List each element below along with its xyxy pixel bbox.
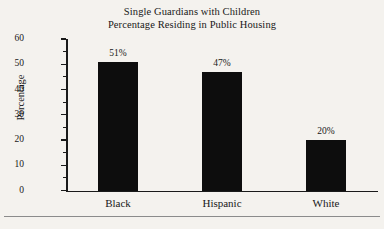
bar (202, 72, 242, 191)
y-axis-line (66, 39, 68, 192)
x-category-label: Black (68, 197, 168, 209)
x-category-label: Hispanic (172, 197, 272, 209)
bar-value-label: 20% (296, 127, 356, 137)
bar-chart-figure: Single Guardians with Children Percentag… (0, 0, 384, 229)
y-tick-label: 50 (0, 59, 24, 69)
chart-title: Single Guardians with Children Percentag… (0, 6, 384, 31)
bar-value-label: 51% (88, 49, 148, 59)
y-axis-tick-labels: 0102030405060 (32, 39, 58, 192)
bar-value-label: 47% (192, 59, 252, 69)
bar (98, 62, 138, 191)
x-category-label: White (276, 197, 376, 209)
plot-area: 51%47%20% (66, 39, 378, 192)
y-tick-minor (63, 152, 66, 153)
y-tick-label: 10 (0, 160, 24, 170)
bar (306, 140, 346, 191)
y-tick-label: 40 (0, 85, 24, 95)
x-axis-category-labels: BlackHispanicWhite (66, 197, 378, 213)
y-tick-label: 60 (0, 34, 24, 44)
y-tick-major (61, 38, 66, 39)
y-tick-label: 0 (0, 186, 24, 196)
y-tick-minor (63, 51, 66, 52)
x-axis-line (66, 191, 378, 193)
y-tick-major (61, 89, 66, 90)
chart-title-line-1: Single Guardians with Children (0, 6, 384, 19)
y-tick-major (61, 139, 66, 140)
y-tick-minor (63, 76, 66, 77)
y-tick-major (61, 165, 66, 166)
chart-title-line-2: Percentage Residing in Public Housing (0, 19, 384, 32)
y-tick-major (61, 190, 66, 191)
y-tick-minor (63, 102, 66, 103)
y-tick-minor (63, 177, 66, 178)
y-tick-minor (63, 127, 66, 128)
footer-divider (4, 216, 380, 217)
y-tick-label: 20 (0, 135, 24, 145)
y-tick-major (61, 64, 66, 65)
y-tick-major (61, 114, 66, 115)
y-tick-label: 30 (0, 110, 24, 120)
